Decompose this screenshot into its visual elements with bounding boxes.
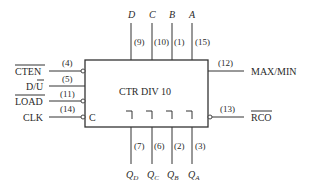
output-qc-label: QC bbox=[147, 169, 159, 182]
block-title: CTR DIV 10 bbox=[119, 86, 171, 97]
pin-13: (13) bbox=[220, 104, 235, 114]
left-inputs: (4) CTEN (5) D/U (11) LOAD (14) CLK bbox=[15, 58, 85, 123]
load-label: LOAD bbox=[15, 96, 43, 107]
input-a-label: A bbox=[188, 9, 196, 20]
pin-3: (3) bbox=[195, 141, 206, 151]
input-b-label: B bbox=[169, 9, 175, 20]
pin-10: (10) bbox=[154, 37, 169, 47]
du-label: D/U bbox=[26, 81, 44, 92]
input-d-label: D bbox=[127, 9, 136, 20]
pin-7: (7) bbox=[134, 141, 145, 151]
pin-5: (5) bbox=[62, 74, 73, 84]
input-c-label: C bbox=[149, 9, 156, 20]
pin-6: (6) bbox=[154, 141, 165, 151]
right-outputs: (12) MAX/MIN (13) RCO bbox=[208, 58, 297, 123]
rco-label: RCO bbox=[251, 112, 272, 123]
pin-15: (15) bbox=[195, 37, 210, 47]
output-qa-label: QA bbox=[188, 169, 200, 182]
pin-4: (4) bbox=[62, 58, 73, 68]
pin-1: (1) bbox=[174, 37, 185, 47]
bottom-outputs: (7) (6) (2) (3) QD QC QB QA bbox=[126, 127, 206, 182]
top-inputs: D C B A (9) (10) (1) (15) bbox=[127, 9, 210, 60]
max-min-label: MAX/MIN bbox=[251, 66, 297, 77]
pin-12: (12) bbox=[218, 58, 233, 68]
clk-label: CLK bbox=[23, 112, 44, 123]
clock-input-label: C bbox=[89, 112, 96, 123]
pin-2: (2) bbox=[174, 141, 185, 151]
output-qb-label: QB bbox=[167, 169, 179, 182]
counter-diagram: CTR DIV 10 C D C B A (9) (10) (1) (15) (… bbox=[0, 0, 311, 192]
pin-14: (14) bbox=[60, 104, 75, 114]
output-qd-label: QD bbox=[126, 169, 138, 182]
pin-11: (11) bbox=[60, 89, 75, 99]
pin-9: (9) bbox=[134, 37, 145, 47]
cten-label: CTEN bbox=[15, 66, 41, 77]
